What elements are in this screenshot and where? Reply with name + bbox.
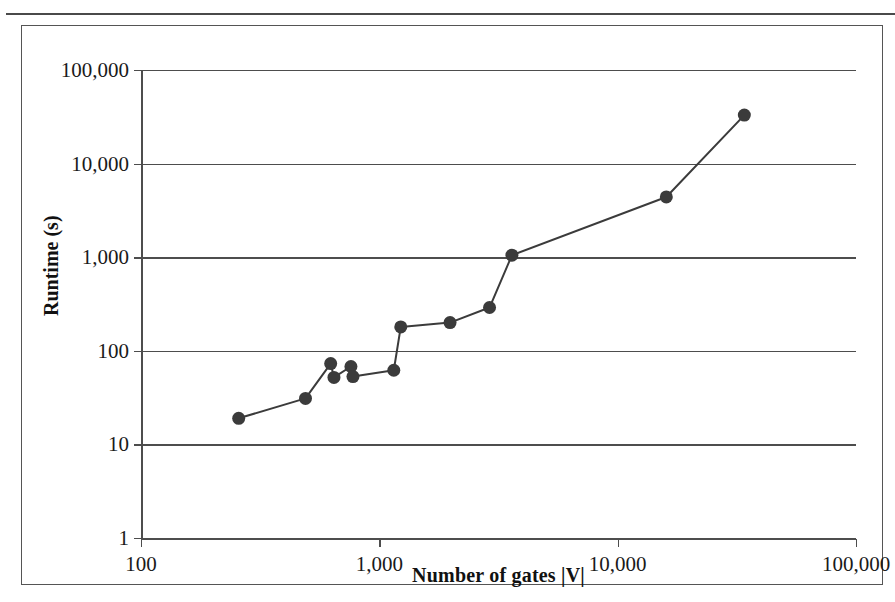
x-axis-title: Number of gates |V| [141,564,856,587]
ylabel-100000: 100,000 [61,60,129,81]
data-point [387,364,400,377]
tick-x-1000 [379,539,380,547]
ylabel-1000: 1,000 [82,247,129,268]
ylabel-100: 100 [98,340,130,361]
y-axis-title: Runtime (s) [40,215,63,316]
tick-x-10000 [618,539,619,547]
ylabel-10: 10 [108,434,129,455]
data-point [324,357,337,370]
x-axis-line [141,538,856,540]
data-point [346,370,359,383]
tick-x-100 [141,539,142,547]
data-point [444,316,457,329]
chart-frame: 100,000 10,000 1,000 100 10 1 100 1,00 [21,25,883,585]
data-point [738,109,751,122]
data-point [299,392,312,405]
ylabel-1: 1 [119,528,130,549]
data-point [327,371,340,384]
data-point [394,320,407,333]
tick-x-100000 [856,539,857,547]
data-point [232,412,245,425]
chart-page: 100,000 10,000 1,000 100 10 1 100 1,00 [0,0,895,602]
series-line [239,115,745,418]
plot-area: 100,000 10,000 1,000 100 10 1 100 1,00 [141,70,856,538]
data-series-runtime [141,70,856,538]
data-point [505,249,518,262]
data-point [660,190,673,203]
ylabel-10000: 10,000 [71,153,129,174]
page-top-rule [6,13,895,15]
data-point [483,301,496,314]
